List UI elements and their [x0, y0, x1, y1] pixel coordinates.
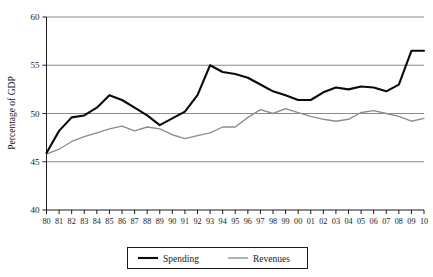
x-tick-label-84: 84 [93, 217, 101, 226]
x-tick-label-97: 97 [256, 217, 264, 226]
x-tick-label-03: 03 [332, 217, 340, 226]
x-tick-label-04: 04 [344, 217, 352, 226]
legend-label-revenues: Revenues [253, 254, 290, 264]
y-tick-label-50: 50 [31, 109, 41, 119]
x-tick-label-93: 93 [206, 217, 214, 226]
y-tick-group [43, 17, 47, 210]
gridlines-group [47, 17, 425, 162]
x-tick-label-98: 98 [269, 217, 277, 226]
y-axis-title: Percentage of GDP [7, 76, 17, 149]
y-tick-label-40: 40 [31, 205, 41, 215]
x-tick-label-group: 8081828384858687888990919293949596979899… [42, 217, 428, 226]
x-tick-label-85: 85 [105, 217, 113, 226]
x-tick-label-90: 90 [168, 217, 176, 226]
line-chart: 4045505560 80818283848586878889909192939… [0, 0, 433, 277]
y-tick-label-55: 55 [31, 60, 41, 70]
x-tick-label-08: 08 [395, 217, 403, 226]
series-line-revenues [47, 109, 425, 154]
legend-label-spending: Spending [163, 254, 199, 264]
x-tick-label-91: 91 [181, 217, 189, 226]
chart-figure: 4045505560 80818283848586878889909192939… [0, 0, 433, 277]
x-tick-label-94: 94 [219, 217, 227, 226]
x-tick-label-99: 99 [281, 217, 289, 226]
x-tick-label-07: 07 [382, 217, 390, 226]
x-tick-label-10: 10 [420, 217, 428, 226]
y-tick-label-group: 4045505560 [31, 12, 41, 215]
x-tick-label-01: 01 [307, 217, 315, 226]
x-tick-label-96: 96 [244, 217, 252, 226]
x-tick-group [47, 210, 425, 214]
chart-legend: Spending Revenues [128, 248, 308, 269]
x-tick-label-82: 82 [68, 217, 76, 226]
x-tick-label-06: 06 [370, 217, 378, 226]
y-tick-label-45: 45 [31, 157, 41, 167]
x-tick-label-81: 81 [55, 217, 63, 226]
x-tick-label-09: 09 [407, 217, 415, 226]
x-tick-label-89: 89 [156, 217, 164, 226]
x-tick-label-95: 95 [231, 217, 239, 226]
y-tick-label-60: 60 [31, 12, 41, 22]
x-tick-label-80: 80 [42, 217, 50, 226]
x-tick-label-05: 05 [357, 217, 365, 226]
x-tick-label-92: 92 [193, 217, 201, 226]
x-tick-label-87: 87 [130, 217, 138, 226]
x-tick-label-86: 86 [118, 217, 126, 226]
x-tick-label-00: 00 [294, 217, 302, 226]
x-tick-label-88: 88 [143, 217, 151, 226]
x-tick-label-83: 83 [80, 217, 88, 226]
x-tick-label-02: 02 [319, 217, 327, 226]
series-line-spending [47, 51, 425, 153]
